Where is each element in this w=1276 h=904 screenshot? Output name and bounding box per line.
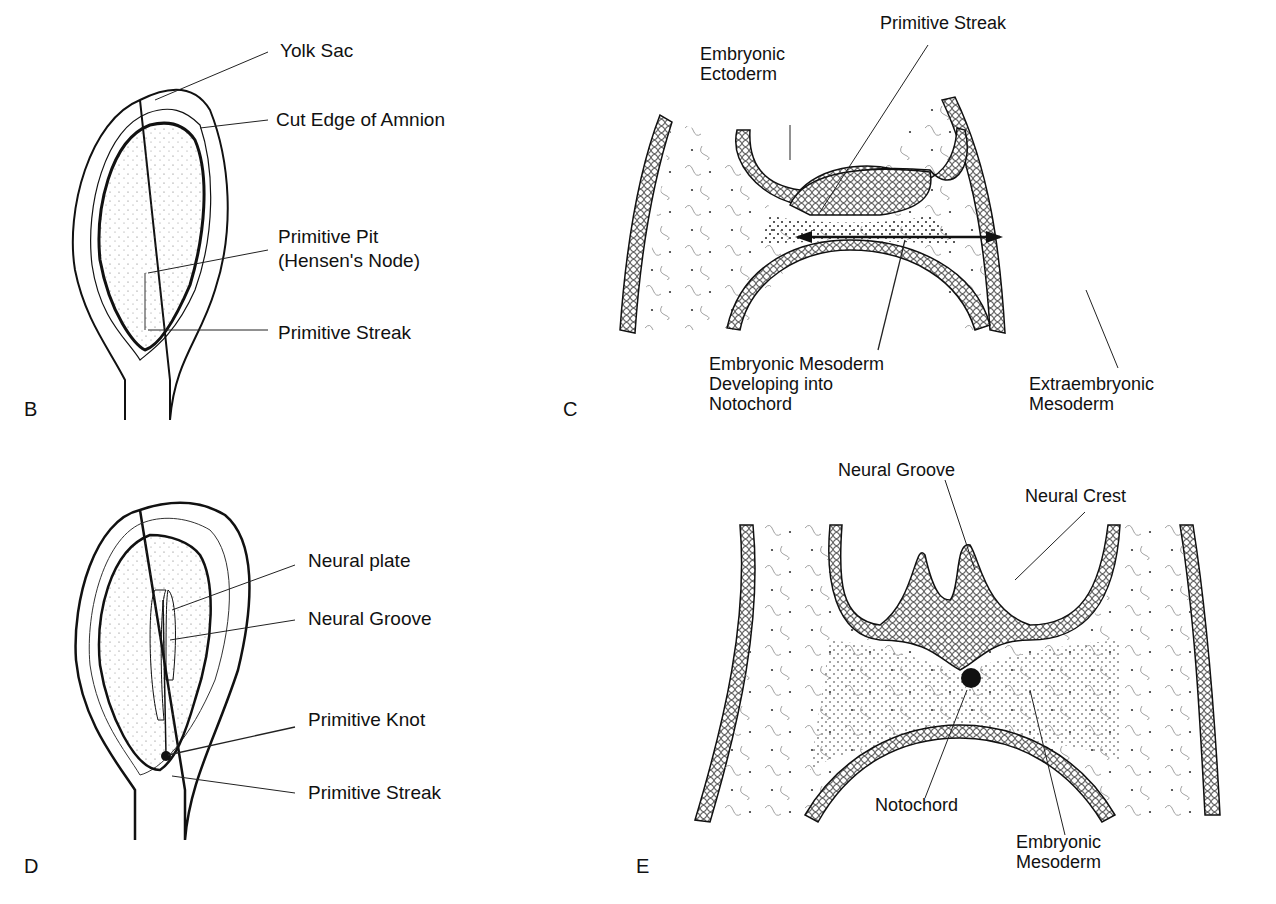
label-embryonic-mesoderm-1: Embryonic Mesoderm [709, 354, 884, 375]
label-cut-edge-of-amnion: Cut Edge of Amnion [276, 109, 445, 131]
label-hensens-node: (Hensen's Node) [278, 250, 420, 272]
panel-letter-e: E [636, 855, 649, 878]
label-primitive-pit: Primitive Pit [278, 226, 378, 248]
label-notochord: Notochord [875, 795, 958, 816]
label-embryonic-mesoderm-2: Developing into [709, 374, 833, 395]
label-extraembryonic-mesoderm-2: Mesoderm [1029, 394, 1114, 415]
label-neural-crest: Neural Crest [1025, 486, 1126, 507]
panel-letter-b: B [24, 398, 37, 421]
panel-b-embryo-drawing [73, 52, 268, 420]
panel-letter-d: D [24, 855, 38, 878]
label-primitive-streak-b: Primitive Streak [278, 322, 411, 344]
label-embryonic-mesoderm-e-1: Embryonic [1016, 832, 1101, 853]
label-embryonic-mesoderm-e-2: Mesoderm [1016, 852, 1101, 873]
label-embryonic-mesoderm-3: Notochord [709, 394, 792, 415]
label-yolk-sac: Yolk Sac [280, 40, 353, 62]
label-primitive-knot: Primitive Knot [308, 709, 425, 731]
label-embryonic-ectoderm-2: Ectoderm [700, 64, 777, 85]
label-neural-groove-e: Neural Groove [838, 460, 955, 481]
panel-e-cross-section [695, 480, 1220, 835]
label-neural-groove-d: Neural Groove [308, 608, 432, 630]
label-primitive-streak-c: Primitive Streak [880, 13, 1006, 34]
panel-letter-c: C [563, 398, 577, 421]
label-extraembryonic-mesoderm-1: Extraembryonic [1029, 374, 1154, 395]
label-primitive-streak-d: Primitive Streak [308, 782, 441, 804]
panel-d-embryo-drawing [76, 503, 295, 840]
label-embryonic-ectoderm-1: Embryonic [700, 44, 785, 65]
diagram-artwork [0, 0, 1276, 904]
label-neural-plate: Neural plate [308, 550, 410, 572]
panel-c-cross-section [620, 45, 1118, 368]
